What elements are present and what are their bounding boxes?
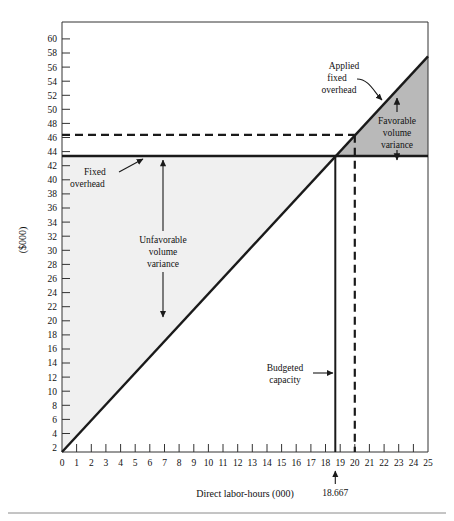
fixed-overhead-label-line1: Fixed — [84, 167, 106, 177]
x-tick-label: 11 — [218, 458, 227, 468]
y-tick-label: 6 — [52, 415, 57, 425]
chart-svg: 60 58 56 54 52 50 48 46 44 42 40 38 36 3… — [0, 0, 454, 521]
unfavorable-label-line3: variance — [147, 259, 179, 269]
x-tick-label: 6 — [147, 458, 152, 468]
y-tick-label: 4 — [52, 429, 57, 439]
unfavorable-label-line2: volume — [149, 247, 178, 257]
y-tick-label: 30 — [48, 246, 58, 256]
x-tick-label: 19 — [335, 458, 345, 468]
x-tick-label: 12 — [233, 458, 243, 468]
budgeted-label-line1: Budgeted — [267, 363, 304, 373]
budgeted-label-line2: capacity — [269, 375, 301, 385]
x-tick-label: 2 — [89, 458, 94, 468]
budgeted-capacity-value-label: 18.667 — [322, 488, 348, 498]
y-tick-label: 46 — [48, 133, 58, 143]
x-tick-label: 24 — [409, 458, 419, 468]
x-tick-label: 17 — [306, 458, 316, 468]
x-tick-label: 18 — [321, 458, 331, 468]
volume-variance-chart: 60 58 56 54 52 50 48 46 44 42 40 38 36 3… — [0, 0, 454, 521]
x-tick-label: 3 — [104, 458, 109, 468]
y-tick-label: 52 — [48, 91, 58, 101]
x-tick-label: 7 — [162, 458, 167, 468]
y-tick-label: 54 — [48, 77, 58, 87]
y-tick-label: 26 — [48, 274, 58, 284]
y-tick-label: 60 — [48, 34, 58, 44]
y-tick-label: 56 — [48, 63, 58, 73]
y-tick-label: 12 — [48, 373, 58, 383]
y-tick-label: 40 — [48, 175, 58, 185]
x-tick-label: 15 — [277, 458, 287, 468]
x-tick-label: 16 — [291, 458, 301, 468]
y-tick-label: 58 — [48, 48, 58, 58]
y-tick-label: 42 — [48, 161, 58, 171]
y-tick-label: 50 — [48, 105, 58, 115]
y-tick-label: 16 — [48, 344, 58, 354]
x-tick-label: 14 — [262, 458, 272, 468]
y-tick-label: 44 — [48, 147, 58, 157]
y-tick-label: 36 — [48, 203, 58, 213]
applied-label-line2: fixed — [327, 73, 347, 83]
applied-label-line3: overhead — [322, 85, 357, 95]
y-tick-label: 34 — [48, 218, 58, 228]
favorable-label-line1: Favorable — [378, 116, 416, 126]
unfavorable-label-line1: Unfavorable — [139, 235, 186, 245]
favorable-label-line2: volume — [383, 128, 412, 138]
favorable-label-line3: variance — [381, 140, 413, 150]
y-tick-label: 10 — [48, 387, 58, 397]
x-tick-label: 22 — [379, 458, 389, 468]
y-tick-label: 28 — [48, 260, 58, 270]
x-tick-label: 0 — [60, 458, 65, 468]
fixed-overhead-label-line2: overhead — [70, 179, 105, 189]
x-tick-label: 1 — [74, 458, 79, 468]
x-tick-label: 4 — [118, 458, 123, 468]
x-tick-label: 8 — [177, 458, 182, 468]
y-tick-label: 20 — [48, 316, 58, 326]
y-tick-label: 2 — [52, 443, 57, 453]
y-tick-label: 32 — [48, 232, 58, 242]
y-tick-label: 22 — [48, 302, 58, 312]
y-tick-label: 48 — [48, 119, 58, 129]
x-tick-label: 10 — [204, 458, 214, 468]
x-tick-label: 23 — [394, 458, 404, 468]
y-tick-label: 38 — [48, 189, 58, 199]
y-tick-label: 24 — [48, 288, 58, 298]
x-tick-label: 9 — [191, 458, 196, 468]
y-tick-label: 14 — [48, 358, 58, 368]
applied-label-line1: Applied — [329, 61, 360, 71]
x-tick-label: 25 — [423, 458, 433, 468]
y-axis-title: ($000) — [17, 227, 29, 254]
x-tick-label: 21 — [365, 458, 375, 468]
x-tick-label: 20 — [350, 458, 360, 468]
x-tick-label: 5 — [133, 458, 138, 468]
x-axis-title: Direct labor-hours (000) — [196, 488, 294, 500]
y-tick-label: 8 — [52, 401, 57, 411]
x-tick-label: 13 — [248, 458, 258, 468]
y-tick-label: 18 — [48, 330, 58, 340]
